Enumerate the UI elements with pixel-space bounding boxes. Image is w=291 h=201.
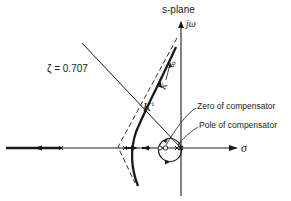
damping-ratio-label: ζ = 0.707 bbox=[47, 64, 88, 74]
zero-icon bbox=[158, 146, 162, 150]
annotation-leaders bbox=[166, 108, 198, 145]
compensator-zero-icon bbox=[163, 146, 167, 150]
plane-title: s-plane bbox=[162, 5, 195, 15]
real-axis-locus-left bbox=[6, 146, 61, 151]
compensator-circle-locus bbox=[159, 138, 182, 165]
gain-point-label: K1 bbox=[143, 101, 155, 113]
locus-arrow-icon bbox=[165, 160, 170, 165]
locus-arrow-icon bbox=[142, 146, 149, 151]
real-axis-locus-right bbox=[125, 146, 150, 151]
real-axis-label: σ bbox=[241, 142, 247, 154]
locus-arrow-icon bbox=[34, 146, 42, 151]
gain-point-symbol: K bbox=[143, 100, 151, 114]
real-axis-arrow-icon bbox=[229, 145, 238, 151]
imaginary-axis-label: jω bbox=[186, 19, 196, 29]
zero-of-compensator-label: Zero of compensator bbox=[197, 102, 275, 111]
zero-markers bbox=[158, 146, 168, 150]
damping-ratio-line bbox=[82, 43, 181, 148]
pole-of-compensator-label: Pole of compensator bbox=[199, 121, 277, 130]
gain-point-superscript: 1 bbox=[151, 100, 155, 108]
